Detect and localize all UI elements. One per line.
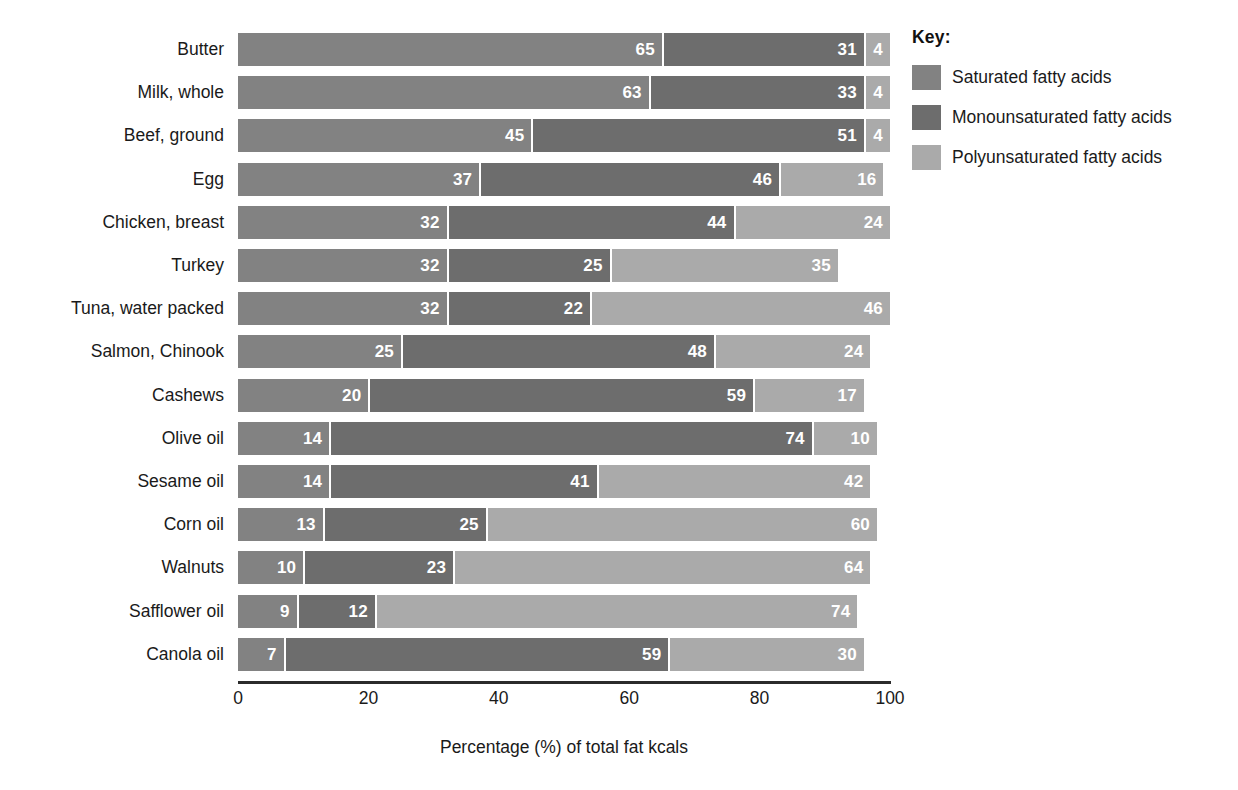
bar-segment: 35 [610, 249, 838, 282]
bar-segment: 63 [238, 76, 649, 109]
bar-segment-value: 64 [844, 559, 870, 576]
x-axis-tick-label: 60 [619, 688, 638, 709]
bar-segment-value: 59 [727, 387, 753, 404]
bar-segment-value: 48 [688, 343, 714, 360]
bar-segment-value: 35 [812, 257, 838, 274]
plot-area: 6531463334455143746163244243225353222462… [238, 33, 890, 681]
bar-row: 205917 [238, 379, 890, 412]
bar-segment: 10 [238, 551, 303, 584]
bar-row: 65314 [238, 33, 890, 66]
bar-segment: 12 [297, 595, 375, 628]
legend-title: Key: [912, 27, 1232, 48]
bar-row: 374616 [238, 163, 890, 196]
bar-row: 102364 [238, 551, 890, 584]
bar-segment-value: 24 [844, 343, 870, 360]
legend-swatch [912, 145, 941, 170]
bar-segment-value: 44 [707, 214, 733, 231]
bar-segment-value: 46 [753, 171, 779, 188]
bar-segment: 45 [238, 119, 531, 152]
legend-label: Polyunsaturated fatty acids [952, 147, 1162, 168]
bar-segment-value: 22 [564, 300, 590, 317]
bar-segment-value: 33 [838, 84, 864, 101]
bar-segment: 51 [531, 119, 864, 152]
category-label: Sesame oil [14, 465, 238, 498]
bar-segment: 24 [714, 335, 870, 368]
legend-label: Monounsaturated fatty acids [952, 107, 1172, 128]
bar-segment: 20 [238, 379, 368, 412]
x-axis-line [238, 681, 891, 684]
category-label: Chicken, breast [14, 206, 238, 239]
bar-segment: 16 [779, 163, 883, 196]
x-axis-tick-label: 40 [489, 688, 508, 709]
bar-row: 322535 [238, 249, 890, 282]
bar-segment-value: 74 [831, 603, 857, 620]
bar-segment: 59 [284, 638, 669, 671]
category-label: Safflower oil [14, 595, 238, 628]
bar-row: 91274 [238, 595, 890, 628]
bar-segment-value: 16 [857, 171, 883, 188]
category-label: Walnuts [14, 551, 238, 584]
bar-segment-value: 10 [277, 559, 303, 576]
bar-row: 324424 [238, 206, 890, 239]
bar-segment-value: 12 [349, 603, 375, 620]
bar-segment: 32 [238, 292, 447, 325]
bar-segment: 14 [238, 465, 329, 498]
bar-segment: 74 [375, 595, 857, 628]
bar-segment: 17 [753, 379, 864, 412]
bar-segment: 48 [401, 335, 714, 368]
bar-segment: 32 [238, 249, 447, 282]
bar-segment-value: 31 [838, 41, 864, 58]
bar-segment-value: 45 [505, 127, 531, 144]
bar-segment-value: 32 [420, 300, 446, 317]
bar-segment-value: 14 [303, 430, 329, 447]
x-axis-title: Percentage (%) of total fat kcals [238, 737, 890, 758]
bar-segment-value: 13 [296, 516, 322, 533]
bar-segment-value: 4 [873, 127, 890, 144]
bar-segment: 37 [238, 163, 479, 196]
bar-segment: 74 [329, 422, 811, 455]
bar-segment: 14 [238, 422, 329, 455]
bar-segment-value: 24 [864, 214, 890, 231]
bar-segment: 44 [447, 206, 734, 239]
x-axis-tick-labels: 020406080100 [238, 688, 890, 718]
bar-row: 147410 [238, 422, 890, 455]
legend-item: Saturated fatty acids [912, 57, 1232, 97]
bar-row: 63334 [238, 76, 890, 109]
bar-segment: 10 [812, 422, 877, 455]
category-label: Canola oil [14, 638, 238, 671]
category-label: Milk, whole [14, 76, 238, 109]
bar-segment: 32 [238, 206, 447, 239]
legend-item: Polyunsaturated fatty acids [912, 137, 1232, 177]
legend-swatch [912, 65, 941, 90]
bar-row: 254824 [238, 335, 890, 368]
category-label: Salmon, Chinook [14, 335, 238, 368]
legend-swatch [912, 105, 941, 130]
bar-segment: 46 [590, 292, 890, 325]
bar-segment-value: 74 [785, 430, 811, 447]
category-label: Tuna, water packed [14, 292, 238, 325]
bar-segment: 4 [864, 33, 890, 66]
bar-segment-value: 14 [303, 473, 329, 490]
bar-segment-value: 60 [851, 516, 877, 533]
bar-segment-value: 4 [873, 41, 890, 58]
bar-segment: 59 [368, 379, 753, 412]
bar-segment: 24 [734, 206, 890, 239]
bar-segment-value: 23 [427, 559, 453, 576]
bar-segment: 42 [597, 465, 871, 498]
bar-row: 144142 [238, 465, 890, 498]
bar-segment: 65 [238, 33, 662, 66]
bar-segment: 23 [303, 551, 453, 584]
bar-segment: 64 [453, 551, 870, 584]
x-axis-tick-label: 100 [875, 688, 904, 709]
y-axis-category-labels: ButterMilk, wholeBeef, groundEggChicken,… [0, 33, 238, 681]
bar-segment-value: 42 [844, 473, 870, 490]
legend-items: Saturated fatty acidsMonounsaturated fat… [912, 57, 1232, 177]
bar-row: 322246 [238, 292, 890, 325]
bar-segment: 25 [238, 335, 401, 368]
bar-segment-value: 7 [267, 646, 284, 663]
category-label: Beef, ground [14, 119, 238, 152]
bar-row: 75930 [238, 638, 890, 671]
bar-segment-value: 25 [375, 343, 401, 360]
bar-segment-value: 25 [459, 516, 485, 533]
bar-segment: 46 [479, 163, 779, 196]
